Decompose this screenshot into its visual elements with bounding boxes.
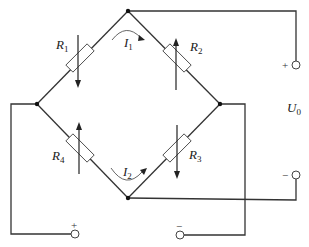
current-i1-arrow-icon bbox=[112, 30, 145, 41]
node-bottom bbox=[126, 196, 130, 200]
output-minus-terminal bbox=[292, 171, 300, 179]
resistor-r4 bbox=[66, 134, 94, 162]
supply-minus-terminal bbox=[176, 231, 184, 239]
label-i2: I2 bbox=[122, 164, 132, 181]
output-minus-sign: − bbox=[282, 169, 288, 181]
resistor-r2 bbox=[163, 44, 191, 72]
supply-minus-sign: − bbox=[176, 220, 182, 232]
node-top bbox=[126, 9, 130, 13]
supply-wires bbox=[11, 104, 245, 235]
node-left bbox=[35, 102, 39, 106]
label-r2: R2 bbox=[189, 39, 202, 56]
output-plus-terminal bbox=[292, 61, 300, 69]
output-plus-sign: + bbox=[282, 59, 288, 71]
label-r3: R3 bbox=[188, 147, 202, 164]
node-right bbox=[218, 102, 222, 106]
resistor-r1 bbox=[66, 44, 94, 72]
bridge-circuit-diagram: R1 R2 R3 R4 I1 I2 U0 + − + − bbox=[0, 0, 309, 247]
supply-plus-terminal bbox=[71, 230, 79, 238]
label-r1: R1 bbox=[55, 37, 68, 54]
supply-plus-sign: + bbox=[71, 219, 77, 231]
label-u0: U0 bbox=[287, 100, 301, 117]
label-r4: R4 bbox=[51, 148, 65, 165]
circuit-svg: R1 R2 R3 R4 I1 I2 U0 + − + − bbox=[0, 0, 309, 247]
label-i1: I1 bbox=[123, 35, 133, 52]
